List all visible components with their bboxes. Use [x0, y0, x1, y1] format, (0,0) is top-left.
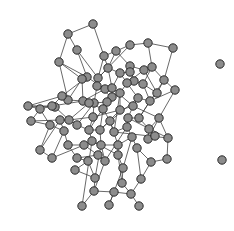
graph-node [116, 106, 124, 114]
graph-node [135, 114, 143, 122]
graph-node [56, 116, 64, 124]
graph-node [94, 74, 102, 82]
graph-node [123, 123, 131, 131]
graph-node [48, 102, 56, 110]
graph-node [64, 30, 72, 38]
graph-node [145, 125, 153, 133]
graph-node [123, 79, 131, 87]
graph-node [101, 157, 109, 165]
graph-node [126, 41, 134, 49]
graph-node [163, 155, 171, 163]
graph-node [112, 47, 120, 55]
graph-node [27, 117, 35, 125]
graph-node [89, 113, 97, 121]
graph-node [116, 69, 124, 77]
graph-node [78, 202, 86, 210]
graph-node [84, 157, 92, 165]
graph-node [99, 105, 107, 113]
graph-node [171, 86, 179, 94]
graph-node [96, 126, 104, 134]
graph-node [114, 141, 122, 149]
graph-node [128, 133, 136, 141]
graph-node [126, 68, 134, 76]
graph-node [94, 151, 102, 159]
graph-node [88, 137, 96, 145]
graph-node [55, 58, 63, 66]
graph-node [108, 84, 116, 92]
network-graph [0, 0, 234, 231]
graph-node [58, 92, 66, 100]
graph-node [65, 116, 73, 124]
graph-node [93, 82, 101, 90]
graph-node [151, 132, 159, 140]
graph-node [36, 105, 44, 113]
graph-node [134, 94, 142, 102]
graph-node [73, 46, 81, 54]
graph-node [24, 102, 32, 110]
graph-node [124, 114, 132, 122]
graph-node [64, 141, 72, 149]
graph-node [48, 154, 56, 162]
graph-node [73, 154, 81, 162]
graph-node [100, 52, 108, 60]
graph-node [78, 75, 86, 83]
graph-node [85, 126, 93, 134]
graph-node [119, 164, 127, 172]
graph-node [160, 76, 168, 84]
graph-node [137, 175, 145, 183]
graph-edge [95, 145, 101, 178]
graph-node [110, 188, 118, 196]
graph-node [104, 64, 112, 72]
graph-node [118, 179, 126, 187]
graph-node [90, 187, 98, 195]
graph-node [147, 158, 155, 166]
graph-node [60, 127, 68, 135]
graph-nodes [24, 20, 226, 210]
graph-node [71, 166, 79, 174]
graph-node [139, 80, 147, 88]
graph-node [110, 128, 118, 136]
graph-node [36, 146, 44, 154]
graph-node [135, 202, 143, 210]
graph-node [91, 174, 99, 182]
graph-node [169, 44, 177, 52]
graph-node [140, 66, 148, 74]
graph-node [97, 141, 105, 149]
graph-node [133, 144, 141, 152]
graph-node [106, 117, 114, 125]
graph-node [129, 102, 137, 110]
graph-node [80, 141, 88, 149]
graph-edge [164, 48, 173, 80]
graph-node [127, 190, 135, 198]
graph-node [148, 63, 156, 71]
graph-node [155, 114, 163, 122]
graph-node [89, 20, 97, 28]
graph-node [144, 39, 152, 47]
graph-node [153, 89, 161, 97]
graph-node [218, 156, 226, 164]
graph-node [216, 60, 224, 68]
graph-edge [93, 24, 104, 56]
graph-node [105, 201, 113, 209]
graph-node [73, 121, 81, 129]
graph-node [146, 97, 154, 105]
graph-node [116, 89, 124, 97]
graph-node [85, 99, 93, 107]
graph-node [46, 121, 54, 129]
graph-edges [28, 24, 175, 206]
graph-node [114, 151, 122, 159]
graph-node [164, 134, 172, 142]
